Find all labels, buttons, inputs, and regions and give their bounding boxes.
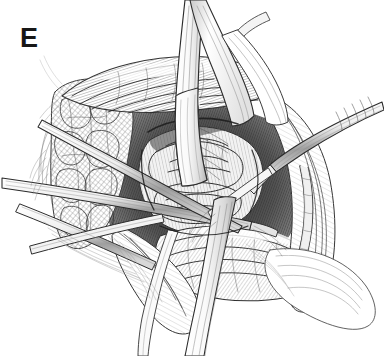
surgical-illustration [0, 0, 384, 356]
panel-label: E [20, 25, 38, 52]
figure-root: E [0, 0, 384, 356]
